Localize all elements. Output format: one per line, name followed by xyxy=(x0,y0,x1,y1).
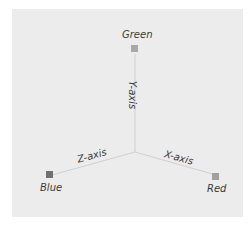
green-label: Green xyxy=(122,30,153,40)
blue-label: Blue xyxy=(40,183,62,193)
blue-marker[interactable] xyxy=(46,171,53,178)
red-label: Red xyxy=(207,184,226,194)
y-axis-label: Y-axis xyxy=(127,81,137,109)
green-marker[interactable] xyxy=(131,45,138,52)
red-marker[interactable] xyxy=(212,173,219,180)
